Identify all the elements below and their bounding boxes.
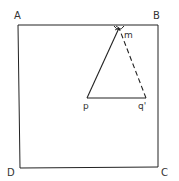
label-p: p — [83, 101, 89, 111]
label-d: D — [7, 167, 15, 178]
label-a: A — [14, 10, 21, 21]
diagram-canvas: A B C D m p q' — [0, 0, 179, 181]
segment-m-p — [87, 28, 119, 98]
label-m: m — [124, 30, 133, 40]
label-q-prime: q' — [138, 101, 146, 111]
label-b: B — [153, 10, 160, 21]
label-c: C — [161, 167, 168, 178]
